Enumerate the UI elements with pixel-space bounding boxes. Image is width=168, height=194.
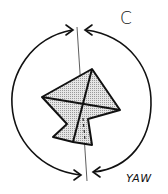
- kite-shape: [42, 69, 120, 145]
- yaw-diagram: [0, 0, 168, 194]
- label-yaw: YAW: [126, 172, 152, 185]
- label-c: C: [120, 8, 132, 28]
